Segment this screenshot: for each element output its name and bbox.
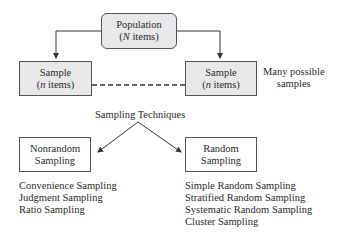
nonrandom-list: Convenience Sampling Judgment Sampling R…	[19, 180, 117, 216]
list-item: Convenience Sampling	[19, 180, 117, 192]
list-item: Systematic Random Sampling	[185, 204, 312, 216]
nonrandom-box: Nonrandom Sampling	[19, 137, 91, 172]
sampling-diagram: Population (N items) Sample (n items) Sa…	[0, 0, 339, 235]
many-samples-label: Many possible samples	[263, 66, 325, 90]
population-box: Population (N items)	[101, 13, 177, 49]
techniques-label: Sampling Techniques	[95, 109, 185, 121]
list-item: Cluster Sampling	[185, 216, 312, 228]
population-title: Population	[102, 19, 176, 31]
list-item: Stratified Random Sampling	[185, 192, 312, 204]
random-list: Simple Random Sampling Stratified Random…	[185, 180, 312, 228]
list-item: Judgment Sampling	[19, 192, 117, 204]
sample-right-box: Sample (n items)	[185, 61, 257, 96]
random-box: Random Sampling	[185, 137, 257, 172]
list-item: Simple Random Sampling	[185, 180, 312, 192]
sample-left-box: Sample (n items)	[19, 61, 92, 96]
list-item: Ratio Sampling	[19, 204, 117, 216]
